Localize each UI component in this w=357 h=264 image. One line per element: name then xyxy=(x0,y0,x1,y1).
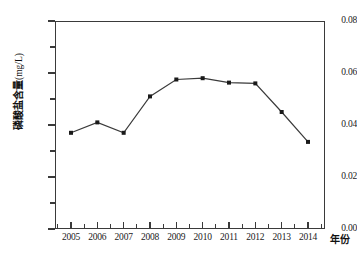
data-point-marker xyxy=(174,78,178,82)
series-markers xyxy=(69,76,310,144)
series-line xyxy=(71,78,308,142)
data-point-marker xyxy=(95,120,99,124)
data-point-marker xyxy=(69,131,73,135)
data-point-marker xyxy=(148,94,152,98)
data-point-marker xyxy=(201,76,205,80)
data-point-marker xyxy=(306,140,310,144)
data-point-marker xyxy=(227,81,231,85)
data-point-marker xyxy=(122,131,126,135)
data-point-marker xyxy=(280,110,284,114)
data-point-marker xyxy=(253,81,257,85)
phosphate-content-line-chart: 0.000.020.040.060.08 2005200620072008200… xyxy=(0,0,357,264)
data-series-layer xyxy=(0,0,357,264)
